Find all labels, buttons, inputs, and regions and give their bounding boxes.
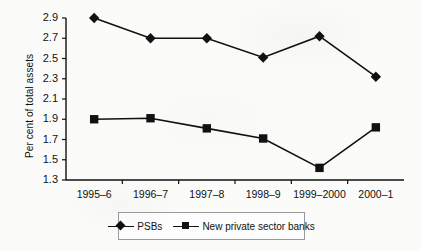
y-axis-title: Per cent of total assets: [24, 54, 35, 158]
legend-item-psbs: PSBs: [108, 221, 162, 232]
legend-item-new-private-sector-banks: New private sector banks: [173, 221, 314, 232]
square-marker-icon: [259, 134, 267, 142]
y-tick-label: 2.9: [28, 11, 58, 23]
x-tick-label: 2000–1: [340, 188, 412, 200]
diamond-marker-icon: [89, 13, 99, 23]
series-new-private-sector-banks: [90, 114, 380, 172]
y-tick-label: 2.7: [28, 31, 58, 43]
chart-legend: PSBs New private sector banks: [118, 212, 305, 240]
square-marker-icon: [203, 124, 211, 132]
square-marker-icon: [173, 221, 199, 231]
series-line: [94, 18, 376, 77]
data-series-layer: [89, 13, 381, 172]
y-tick-label: 1.3: [28, 173, 58, 185]
legend-label-psbs: PSBs: [137, 221, 162, 232]
square-marker-icon: [372, 123, 380, 131]
legend-label-new-private-sector-banks: New private sector banks: [202, 221, 314, 232]
square-marker-icon: [315, 164, 323, 172]
line-chart: 1.31.51.71.92.12.32.52.72.9 1995–61996–7…: [0, 0, 421, 251]
diamond-marker-icon: [145, 33, 155, 43]
diamond-marker-icon: [202, 33, 212, 43]
square-marker-icon: [146, 114, 154, 122]
diamond-marker-icon: [108, 221, 134, 231]
series-psbs: [89, 13, 381, 82]
square-marker-icon: [90, 115, 98, 123]
diamond-marker-icon: [314, 31, 324, 41]
diamond-marker-icon: [371, 72, 381, 82]
series-line: [94, 118, 376, 168]
diamond-marker-icon: [258, 52, 268, 62]
